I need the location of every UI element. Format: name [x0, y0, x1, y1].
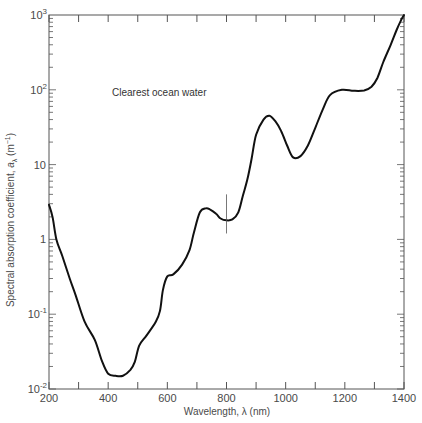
x-axis-title: Wavelength, λ (nm) [184, 406, 270, 417]
x-tick-label: 200 [40, 392, 58, 404]
x-tick-label: 1400 [392, 392, 416, 404]
x-tick-label: 1000 [273, 392, 297, 404]
annotation-label: Clearest ocean water [112, 87, 207, 98]
x-tick-label: 400 [99, 392, 117, 404]
absorption-chart: 200400600800100012001400 10-210-11101021… [0, 0, 422, 423]
y-tick-label: 103 [30, 7, 47, 21]
y-tick-label: 10-1 [28, 306, 48, 320]
x-tick-label: 800 [217, 392, 235, 404]
y-tick-label: 102 [30, 82, 47, 96]
x-tick-labels: 200400600800100012001400 [40, 392, 416, 404]
x-tick-label: 600 [158, 392, 176, 404]
y-axis-title: Spectral absorption coefficient, aλ (m−1… [4, 133, 18, 307]
y-tick-label: 10 [34, 159, 46, 171]
x-tick-label: 1200 [333, 392, 357, 404]
y-tick-label: 1 [40, 233, 46, 245]
y-tick-labels: 10-210-1110102103 [28, 7, 48, 395]
